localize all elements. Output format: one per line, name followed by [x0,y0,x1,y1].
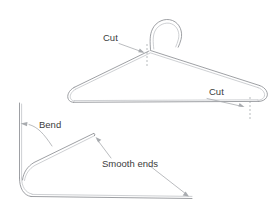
label-cut-right: Cut [209,86,224,97]
diagram-canvas: Cut Cut Bend Smooth ends [0,0,278,209]
smooth-ends-leader-upper [96,137,112,158]
hanger-bottom-bar [74,100,259,103]
smooth-ends-leader-lower [150,166,189,197]
hanger-left-shoulder [74,51,150,89]
hanger-right-end [258,86,268,102]
bent-wire-vertical [20,103,22,178]
bent-wire-bottom-bar [31,194,192,198]
cut-top-leader [119,44,145,53]
label-bend: Bend [39,119,61,130]
hanger-instruction-diagram: Cut Cut Bend Smooth ends [0,0,278,209]
coat-hanger-object [68,19,268,102]
label-cut-top: Cut [103,32,118,43]
hanger-right-shoulder [150,51,259,88]
bent-wire-corner [20,178,33,197]
hanger-hook-icon [150,19,181,49]
hanger-left-end [68,88,76,103]
bent-wire-diagonal [23,133,95,180]
label-smooth-ends: Smooth ends [102,158,158,169]
